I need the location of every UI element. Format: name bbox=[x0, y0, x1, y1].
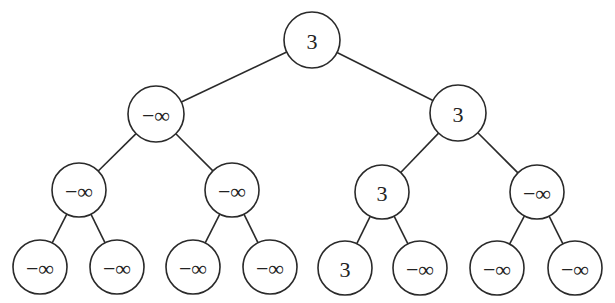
tree-edge bbox=[510, 216, 525, 244]
tree-node: 3 bbox=[318, 241, 372, 295]
tree-node: −∞ bbox=[90, 240, 144, 294]
tree-node: −∞ bbox=[393, 241, 447, 295]
node-label: −∞ bbox=[483, 257, 511, 282]
node-label: 3 bbox=[340, 257, 351, 282]
tree-node: 3 bbox=[284, 12, 340, 68]
tree-edge bbox=[244, 214, 258, 243]
tree-nodes: 3−∞3−∞−∞3−∞−∞−∞−∞−∞3−∞−∞−∞ bbox=[13, 12, 602, 295]
tree-edge bbox=[478, 133, 518, 173]
node-label: 3 bbox=[377, 181, 388, 206]
tree-node: −∞ bbox=[52, 163, 106, 217]
node-label: 3 bbox=[307, 29, 318, 54]
tree-edge bbox=[205, 214, 220, 243]
tree-node: −∞ bbox=[166, 240, 220, 294]
tree-edge bbox=[357, 216, 370, 243]
node-label: −∞ bbox=[142, 103, 170, 128]
tree-edge bbox=[401, 133, 439, 172]
tree-edge bbox=[394, 216, 408, 244]
node-label: −∞ bbox=[256, 256, 284, 281]
binary-tree-diagram: 3−∞3−∞−∞3−∞−∞−∞−∞−∞3−∞−∞−∞ bbox=[0, 0, 615, 303]
tree-node: 3 bbox=[355, 165, 409, 219]
tree-edge bbox=[549, 216, 563, 244]
node-label: −∞ bbox=[26, 256, 54, 281]
tree-node: −∞ bbox=[243, 240, 297, 294]
tree-node: −∞ bbox=[205, 163, 259, 217]
tree-edge bbox=[91, 214, 105, 243]
node-label: −∞ bbox=[179, 256, 207, 281]
node-label: −∞ bbox=[65, 179, 93, 204]
tree-edge bbox=[337, 53, 433, 101]
tree-node: −∞ bbox=[13, 240, 67, 294]
tree-edge bbox=[176, 134, 213, 171]
tree-edge bbox=[181, 52, 286, 102]
node-label: −∞ bbox=[406, 257, 434, 282]
tree-node: −∞ bbox=[470, 241, 524, 295]
tree-node: −∞ bbox=[548, 241, 602, 295]
node-label: −∞ bbox=[103, 256, 131, 281]
tree-node: −∞ bbox=[510, 165, 564, 219]
node-label: −∞ bbox=[218, 179, 246, 204]
tree-edge bbox=[52, 214, 67, 243]
tree-edge bbox=[98, 134, 136, 171]
tree-node: −∞ bbox=[128, 86, 184, 142]
node-label: 3 bbox=[453, 102, 464, 127]
tree-node: 3 bbox=[430, 85, 486, 141]
node-label: −∞ bbox=[523, 181, 551, 206]
node-label: −∞ bbox=[561, 257, 589, 282]
tree-edges bbox=[52, 52, 563, 244]
